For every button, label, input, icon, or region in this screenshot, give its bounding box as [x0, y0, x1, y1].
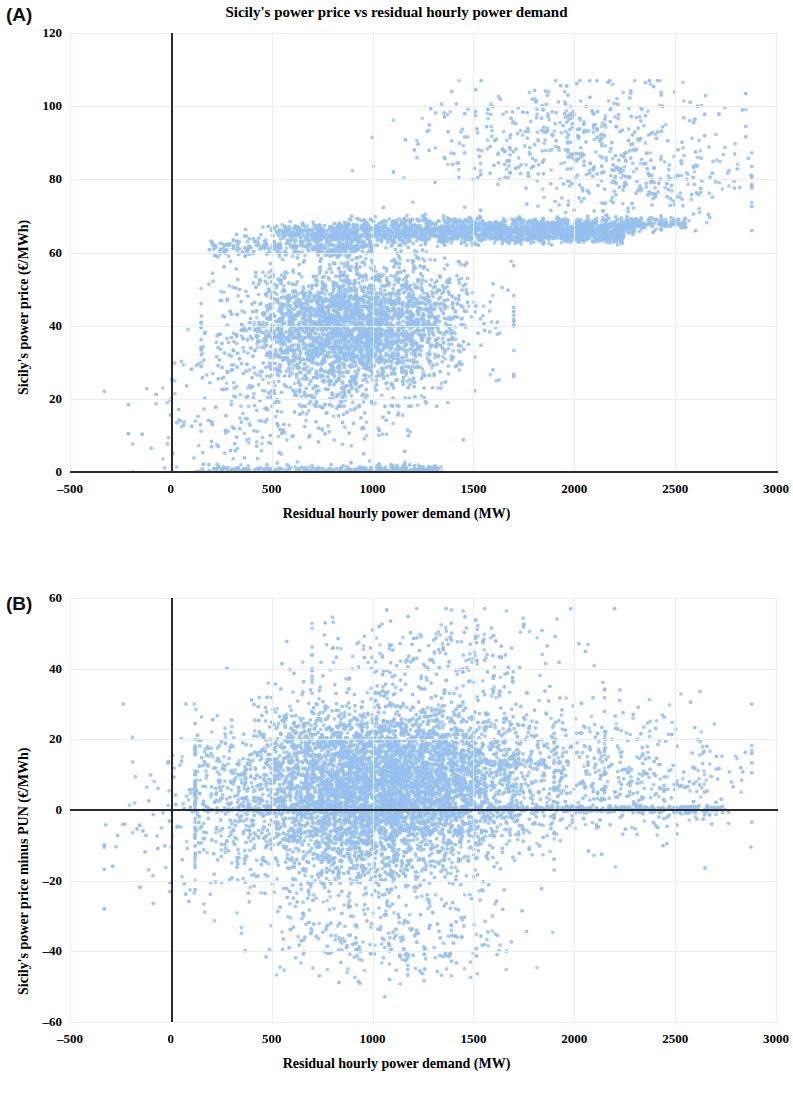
gridline-horizontal: [70, 326, 776, 327]
gridline-horizontal: [70, 739, 776, 740]
x-axis-tick-label: 2000: [561, 1031, 587, 1047]
y-axis-tick-label: 80: [12, 171, 62, 187]
x-axis-tick-label: 500: [262, 1031, 282, 1047]
y-axis-tick-label: 0: [12, 802, 62, 818]
x-axis-tick-label: 1000: [360, 1031, 386, 1047]
x-axis-tick-label: 0: [168, 481, 175, 497]
x-axis-tick-label: 2500: [662, 481, 688, 497]
gridline-horizontal: [70, 951, 776, 952]
gridline-horizontal: [70, 106, 776, 107]
y-axis-tick-label: 40: [12, 661, 62, 677]
plot-area-a: [70, 33, 776, 472]
y-axis-tick-label: 40: [12, 318, 62, 334]
x-axis-tick-label: 3000: [763, 1031, 789, 1047]
x-axis-tick-label: 3000: [763, 481, 789, 497]
x-axis-line: [70, 809, 778, 811]
y-axis-tick-label: –20: [12, 873, 62, 889]
x-axis-tick-label: 1500: [460, 1031, 486, 1047]
x-axis-line: [70, 471, 778, 473]
x-axis-tick-label: 0: [168, 1031, 175, 1047]
y-axis-tick-label: –40: [12, 943, 62, 959]
gridline-horizontal: [70, 179, 776, 180]
y-axis-line: [171, 598, 173, 1022]
x-axis-tick-label: –500: [57, 1031, 83, 1047]
y-axis-tick-label: 100: [12, 98, 62, 114]
x-axis-tick-label: 1000: [360, 481, 386, 497]
gridline-horizontal: [70, 1022, 776, 1023]
gridline-horizontal: [70, 881, 776, 882]
y-axis-tick-label: 60: [12, 590, 62, 606]
chart-panel-a: (A) Sicily's power price vs residual hou…: [0, 0, 793, 545]
y-axis-tick-label: 20: [12, 391, 62, 407]
x-axis-tick-label: 2500: [662, 1031, 688, 1047]
y-axis-tick-label: –60: [12, 1014, 62, 1030]
y-axis-tick-label: 60: [12, 245, 62, 261]
gridline-horizontal: [70, 598, 776, 599]
x-axis-title-a: Residual hourly power demand (MW): [0, 506, 793, 522]
y-axis-tick-label: 120: [12, 25, 62, 41]
gridline-horizontal: [70, 399, 776, 400]
gridline-horizontal: [70, 253, 776, 254]
gridline-vertical: [776, 33, 777, 472]
y-axis-tick-label: 20: [12, 731, 62, 747]
gridline-horizontal: [70, 669, 776, 670]
gridline-horizontal: [70, 33, 776, 34]
y-axis-line: [171, 33, 173, 472]
y-axis-tick-label: 0: [12, 464, 62, 480]
x-axis-tick-label: –500: [57, 481, 83, 497]
x-axis-tick-label: 2000: [561, 481, 587, 497]
chart-panel-b: (B) Sicily's power price minus PUN vs Si…: [0, 545, 793, 1103]
x-axis-tick-label: 1500: [460, 481, 486, 497]
x-axis-title-b: Residual hourly power demand (MW): [0, 1056, 793, 1072]
chart-title-a: Sicily's power price vs residual hourly …: [0, 4, 793, 21]
x-axis-tick-label: 500: [262, 481, 282, 497]
